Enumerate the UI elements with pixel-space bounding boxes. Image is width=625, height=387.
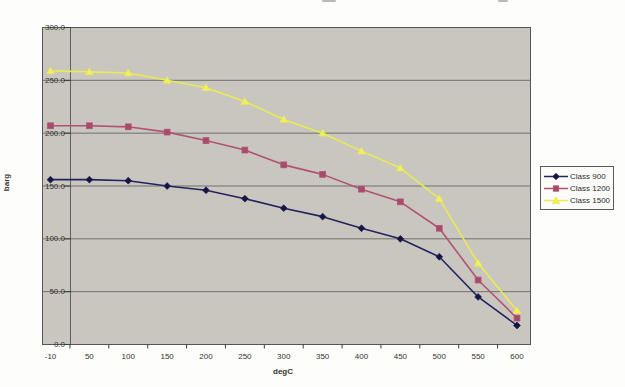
y-axis-label: 100.0 [33,234,65,243]
y-axis-label: 50.0 [33,287,65,296]
x-axis-label: 50 [72,352,106,361]
legend-sample-class-900-icon [544,172,568,181]
series-class-900 [47,176,520,329]
scanned-chart-page: 0.050.0100.0150.0200.0250.0300.0 -105010… [0,0,625,387]
x-axis-label: 550 [461,352,495,361]
series-line [51,180,518,326]
legend-item-class-900: Class 900 [544,170,609,182]
series-line [51,71,518,311]
series-line [51,126,518,318]
x-axis-title: degC [263,367,303,376]
y-axis-title: barg [2,168,11,198]
x-axis-label: 400 [345,352,379,361]
series-class-1500 [47,67,521,313]
legend-label: Class 1500 [570,196,610,205]
y-axis-label: 0.0 [33,340,65,349]
legend-sample-class-1500-icon [544,196,568,205]
x-axis-label: 450 [383,352,417,361]
y-axis-label: 200.0 [33,129,65,138]
legend-label: Class 900 [570,172,606,181]
x-axis-label: 350 [306,352,340,361]
y-axis-label: 300.0 [33,23,65,32]
y-axis-label: 250.0 [33,76,65,85]
legend-item-class-1500: Class 1500 [544,194,609,206]
x-axis-label: 250 [228,352,262,361]
x-axis-label: 150 [150,352,184,361]
x-axis-label: 200 [189,352,223,361]
x-axis-label: 500 [422,352,456,361]
legend-item-class-1200: Class 1200 [544,182,609,194]
x-axis-label: 300 [267,352,301,361]
x-axis-label: 600 [500,352,534,361]
y-axis-label: 150.0 [33,182,65,191]
x-axis-label: 100 [111,352,145,361]
legend-label: Class 1200 [570,184,610,193]
legend: Class 900 Class 1200 Class 1500 [540,166,614,210]
chart-svg [0,0,625,387]
legend-sample-class-1200-icon [544,184,568,193]
x-axis-label: -10 [34,352,68,361]
